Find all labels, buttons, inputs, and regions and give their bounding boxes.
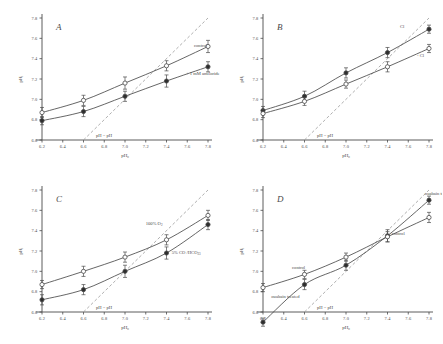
x-tick-label: 6.2 <box>39 144 45 149</box>
panel-a: 6.66.87.07.27.47.67.86.26.46.66.87.07.27… <box>0 0 221 172</box>
panel-letter-a: A <box>55 22 62 32</box>
y-tick-label: 7.6 <box>31 36 38 41</box>
panel-d: 6.66.87.07.27.47.67.86.26.46.66.87.07.27… <box>221 172 442 344</box>
data-point-open <box>261 111 265 115</box>
plot-a: 6.66.87.07.27.47.67.86.26.46.66.87.07.27… <box>0 0 221 172</box>
y-tick-label: 7.6 <box>252 36 259 41</box>
data-point-filled <box>164 251 168 255</box>
data-point-open <box>344 255 348 259</box>
identity-line-label: pH = pH <box>317 133 334 138</box>
series-label-alt-2: control <box>292 265 306 270</box>
panel-letter-c: C <box>56 194 63 204</box>
y-tick-label: 7.4 <box>252 228 259 233</box>
series-label-1: Cl <box>400 24 405 29</box>
x-tick-label: 7.2 <box>143 144 149 149</box>
y-axis-title: pHi <box>239 75 245 82</box>
y-tick-label: 6.6 <box>31 310 38 315</box>
data-point-open <box>123 255 127 259</box>
series-curve <box>263 217 429 287</box>
y-tick-label: 6.8 <box>31 117 38 122</box>
series-label-2: control <box>392 231 406 236</box>
x-tick-label: 7.0 <box>122 316 129 321</box>
x-tick-label: 7.4 <box>163 144 170 149</box>
y-tick-label: 7.2 <box>31 77 37 82</box>
data-point-open <box>164 64 168 68</box>
x-tick-label: 6.4 <box>281 144 288 149</box>
identity-line-label: pH = pH <box>317 305 334 310</box>
x-axis-title: pHo <box>121 325 129 331</box>
y-tick-label: 7.0 <box>31 269 38 274</box>
plot-d: 6.66.87.07.27.47.67.86.26.46.66.87.07.27… <box>221 172 442 344</box>
series-label-sub: 2 <box>161 223 163 227</box>
x-tick-label: 7.4 <box>384 144 391 149</box>
x-tick-label: 6.8 <box>322 316 329 321</box>
x-axis-title: pHo <box>342 153 350 159</box>
x-tick-label: 6.6 <box>80 316 87 321</box>
data-point-filled <box>427 27 431 31</box>
panel-letter-d: D <box>276 194 284 204</box>
x-tick-label: 7.4 <box>163 316 170 321</box>
x-tick-label: 7.0 <box>122 144 129 149</box>
x-tick-label: 7.2 <box>143 316 149 321</box>
x-tick-label: 6.4 <box>60 144 67 149</box>
y-tick-label: 7.2 <box>252 77 258 82</box>
series-label-2: + 1 mM amiloride <box>186 71 220 76</box>
x-tick-label: 6.8 <box>101 316 108 321</box>
x-axis-title: pHo <box>121 153 129 159</box>
x-axis-title-sub: o <box>127 327 129 331</box>
y-tick-label: 7.8 <box>252 188 259 193</box>
x-tick-label: 7.6 <box>405 144 412 149</box>
data-point-open <box>261 286 265 290</box>
x-tick-label: 7.8 <box>426 316 433 321</box>
identity-line <box>305 18 430 140</box>
x-tick-label: 6.8 <box>101 144 108 149</box>
y-tick-label: 7.0 <box>252 269 259 274</box>
data-point-filled <box>40 119 44 123</box>
x-tick-label: 7.6 <box>184 316 191 321</box>
data-point-filled <box>344 71 348 75</box>
plot-b: 6.66.87.07.27.47.67.86.26.46.66.87.07.27… <box>221 0 442 172</box>
data-point-open <box>302 99 306 103</box>
data-point-open <box>40 282 44 286</box>
data-point-open <box>81 269 85 273</box>
y-tick-label: 6.8 <box>252 117 259 122</box>
data-point-filled <box>123 269 127 273</box>
data-point-open <box>344 82 348 86</box>
data-point-open <box>385 235 389 239</box>
y-tick-label: 6.6 <box>252 310 259 315</box>
y-tick-label: 7.6 <box>31 208 38 213</box>
x-tick-label: 7.8 <box>205 316 212 321</box>
y-tick-label: 6.6 <box>31 138 38 143</box>
data-point-open <box>385 65 389 69</box>
x-axis-title-sub: o <box>348 155 350 159</box>
series-1-a <box>40 40 210 117</box>
y-tick-label: 7.8 <box>252 16 259 21</box>
data-point-open <box>302 272 306 276</box>
plot-c: 6.66.87.07.27.47.67.86.26.46.66.87.07.27… <box>0 172 221 344</box>
series-label-1: ouabain treated <box>425 191 442 196</box>
x-tick-label: 7.2 <box>364 144 370 149</box>
y-tick-label: 6.8 <box>252 289 259 294</box>
y-tick-label: 6.8 <box>31 289 38 294</box>
identity-line-label: pH = pH <box>96 305 113 310</box>
x-tick-label: 6.4 <box>281 316 288 321</box>
series-label-sub2: 3 <box>199 252 201 256</box>
data-point-filled <box>261 320 265 324</box>
x-tick-label: 6.6 <box>301 144 308 149</box>
identity-line <box>84 18 209 140</box>
x-tick-label: 7.0 <box>343 144 350 149</box>
x-tick-label: 7.6 <box>405 316 412 321</box>
y-tick-label: 7.0 <box>252 97 259 102</box>
data-point-filled <box>344 263 348 267</box>
data-point-filled <box>40 298 44 302</box>
data-point-open <box>123 81 127 85</box>
y-axis-title-sub: i <box>241 75 245 76</box>
y-tick-label: 7.6 <box>252 208 259 213</box>
y-axis-title-sub: i <box>20 75 24 76</box>
y-tick-label: 7.4 <box>31 228 38 233</box>
x-axis-title-sub: o <box>127 155 129 159</box>
panel-b: 6.66.87.07.27.47.67.86.26.46.66.87.07.27… <box>221 0 442 172</box>
data-point-filled <box>427 198 431 202</box>
series-label-alt-1: ouabain treated <box>271 294 300 299</box>
x-tick-label: 6.6 <box>80 144 87 149</box>
